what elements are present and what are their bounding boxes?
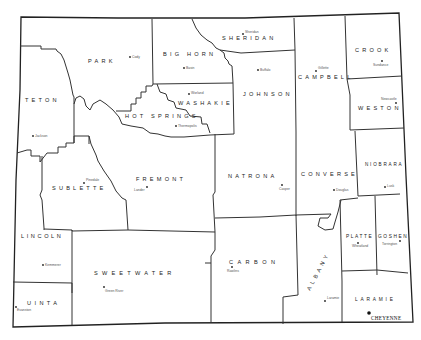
city-dot-sundance — [381, 60, 383, 62]
county-label-converse: CONVERSE — [301, 171, 358, 177]
city-dot-gillette — [315, 70, 317, 72]
city-label-laramie: Laramie — [327, 296, 339, 300]
city-label-torrington: Torrington — [382, 242, 397, 246]
county-label-uinta: UINTA — [27, 300, 60, 306]
city-dot-basin — [183, 67, 185, 69]
city-dot-casper — [281, 184, 283, 186]
county-label-goshen: GOSHEN — [378, 234, 408, 239]
county-label-carbon: CARBON — [229, 259, 279, 265]
city-dot-newcastle — [395, 102, 397, 104]
city-label-buffalo: Buffalo — [260, 68, 271, 72]
city-dot-kemmerer — [42, 264, 44, 266]
county-label-platte: PLATTE — [346, 234, 373, 239]
county-label-natrona: NATRONA — [228, 173, 277, 179]
county-label-johnson: JOHNSON — [243, 91, 293, 97]
county-label-niobrara: NIOBRARA — [365, 162, 403, 167]
city-dot-green-river — [103, 286, 105, 288]
city-label-newcastle: Newcastle — [381, 97, 397, 101]
city-dot-sheridan — [242, 33, 244, 35]
city-label-sundance: Sundance — [373, 63, 388, 67]
county-label-albany: ALBANY — [306, 251, 331, 291]
county-label-sheridan: SHERIDAN — [222, 35, 277, 41]
city-label-jackson: Jackson — [35, 134, 48, 138]
city-label-gillette: Gillette — [318, 66, 329, 70]
capital-label-cheyenne: CHEYENNE — [371, 315, 401, 321]
city-label-lander: Lander — [134, 188, 145, 192]
city-dot-lusk — [384, 186, 386, 188]
city-label-sheridan: Sheridan — [245, 30, 259, 34]
county-label-washakie: WASHAKIE — [178, 100, 233, 106]
city-dot-torrington — [399, 240, 401, 242]
city-dot-thermopolis — [175, 125, 177, 127]
city-label-lusk: Lusk — [387, 184, 394, 188]
city-label-worland: Worland — [191, 91, 204, 95]
county-label-crook: CROOK — [355, 47, 392, 53]
city-dot-douglas — [333, 189, 335, 191]
city-dot-buffalo — [257, 69, 259, 71]
city-label-thermopolis: Thermopolis — [178, 124, 197, 128]
city-dot-jackson — [32, 135, 34, 137]
city-dot-lander — [146, 186, 148, 188]
city-dot-pinedale — [83, 182, 85, 184]
county-label-laramie: LARAMIE — [355, 297, 396, 302]
county-label-lincoln: LINCOLN — [21, 233, 63, 239]
city-dot-cody — [129, 56, 131, 58]
city-label-pinedale: Pinedale — [86, 178, 99, 182]
city-label-evanston: Evanston — [17, 308, 31, 312]
city-label-green-river: Green River — [105, 289, 124, 293]
city-label-wheatland: Wheatland — [352, 244, 368, 248]
city-dot-worland — [188, 93, 190, 95]
county-label-teton: TETON — [25, 97, 60, 103]
county-label-campbell: CAMPBELL — [298, 74, 353, 80]
city-dot-rawlins — [231, 266, 233, 268]
city-label-kemmerer: Kemmerer — [45, 263, 62, 267]
city-label-cody: Cody — [132, 55, 140, 59]
city-label-douglas: Douglas — [336, 188, 349, 192]
city-dot-laramie — [324, 300, 326, 302]
county-label-big-horn: BIG HORN — [163, 51, 216, 57]
city-label-basin: Basin — [186, 66, 195, 70]
county-label-weston: WESTON — [358, 105, 402, 111]
county-label-park: PARK — [88, 58, 116, 64]
county-label-hot-springs: HOT SPRINGS — [125, 113, 199, 119]
county-label-sublette: SUBLETTE — [52, 185, 107, 191]
city-label-rawlins: Rawlins — [227, 269, 239, 273]
city-label-casper: Casper — [279, 187, 291, 191]
county-label-sweetwater: SWEETWATER — [94, 270, 175, 276]
county-label-fremont: FREMONT — [136, 176, 186, 182]
state-boundary — [13, 13, 413, 327]
wyoming-county-map: PARK BIG HORN SHERIDAN CAMPBELL CROOK TE… — [0, 0, 421, 340]
